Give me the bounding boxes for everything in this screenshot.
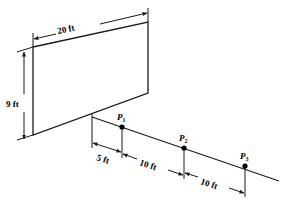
- ext-line-left-top: [17, 47, 33, 52]
- point-label-p1: P1: [117, 112, 126, 123]
- dim-line-top-right: [100, 13, 147, 24]
- dim-line-10ft-a-left: [123, 154, 137, 159]
- point-dot-p3: [242, 163, 247, 168]
- dimension-label-10ft-a: 10 ft: [138, 157, 157, 172]
- dimension-label-left: 9 ft: [6, 99, 19, 109]
- dim-line-10ft-a-right: [168, 170, 183, 175]
- diagram-canvas: 20 ft 9 ft 5: [0, 0, 285, 201]
- point-dot-p1: [119, 124, 124, 129]
- engineering-diagram: 20 ft 9 ft 5: [0, 0, 285, 201]
- wall-parallelogram: [33, 22, 148, 135]
- point-dot-p2: [181, 145, 186, 150]
- point-markers: P1 P2 P3: [117, 112, 249, 169]
- dimension-label-10ft-b: 10 ft: [199, 176, 218, 191]
- ext-line-left-bottom: [17, 135, 33, 140]
- wall-outline: [33, 22, 148, 135]
- point-label-p2: P2: [179, 133, 188, 144]
- dimension-chain-ground: 5 ft 10 ft 10 ft: [92, 113, 245, 197]
- dimension-label-top: 20 ft: [56, 23, 75, 36]
- dim-line-10ft-b-right: [229, 188, 244, 193]
- dim-line-top-left: [34, 34, 56, 39]
- dimension-label-5ft: 5 ft: [95, 152, 110, 165]
- dimension-left-9ft: 9 ft: [6, 47, 33, 140]
- point-label-p3: P3: [240, 151, 249, 162]
- dim-line-10ft-b-left: [185, 173, 198, 177]
- dim-line-5ft: [93, 143, 121, 152]
